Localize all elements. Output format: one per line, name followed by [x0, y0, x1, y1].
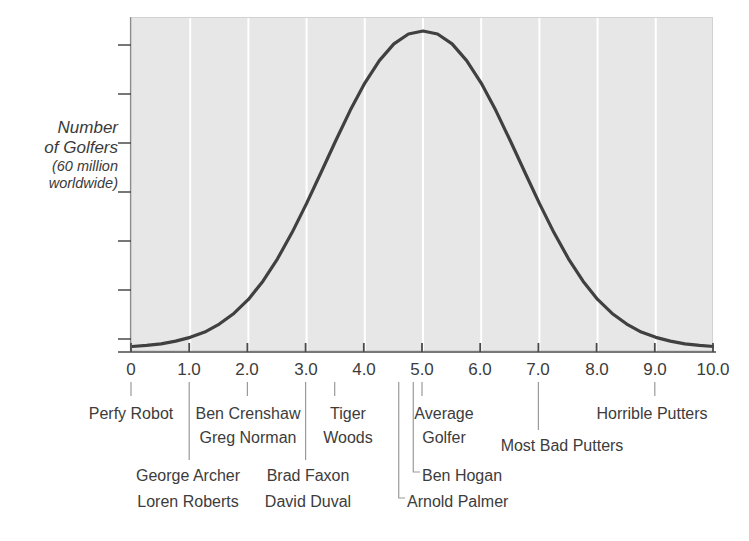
leader-elbow: [399, 382, 405, 498]
plot-area: [131, 17, 713, 351]
golfer-putting-distribution-chart: Number of Golfers (60 million worldwide)…: [0, 0, 749, 541]
x-tick-label-1: 1.0: [177, 360, 201, 380]
curve-svg: [132, 18, 714, 352]
x-tick-label-6: 6.0: [468, 360, 492, 380]
y-axis-label-line-3: (60 million: [8, 158, 118, 175]
annotation-loren-roberts: Loren Roberts: [137, 492, 238, 512]
annotation-ben-crenshaw: Ben Crenshaw: [196, 404, 301, 424]
x-tick-label-3: 3.0: [294, 360, 318, 380]
annotation-george-archer: George Archer: [136, 466, 240, 486]
leader-elbow: [413, 382, 420, 472]
annotation-brad-faxon: Brad Faxon: [267, 466, 350, 486]
annotation-golfer: Golfer: [422, 428, 466, 448]
annotation-horrible-putters: Horrible Putters: [596, 404, 707, 424]
annotation-tiger: Tiger: [330, 404, 366, 424]
x-tick-label-7: 7.0: [526, 360, 550, 380]
x-tick-label-8: 8.0: [585, 360, 609, 380]
annotation-david-duval: David Duval: [265, 492, 351, 512]
annotation-average: Average: [414, 404, 473, 424]
y-axis-label-line-2: of Golfers: [8, 138, 118, 158]
annotation-arnold-palmer: Arnold Palmer: [407, 492, 508, 512]
y-axis-label: Number of Golfers (60 million worldwide): [8, 118, 118, 192]
annotation-most-bad-putters: Most Bad Putters: [501, 436, 624, 456]
x-tick-label-0: 0: [126, 360, 135, 380]
annotation-greg-norman: Greg Norman: [200, 428, 297, 448]
annotation-ben-hogan: Ben Hogan: [422, 466, 502, 486]
x-tick-label-10: 10.0: [696, 360, 729, 380]
annotation-perfy-robot: Perfy Robot: [89, 404, 173, 424]
y-axis-ticks: [118, 45, 131, 339]
x-tick-label-4: 4.0: [352, 360, 376, 380]
y-axis-label-line-4: worldwide): [8, 175, 118, 192]
x-tick-label-9: 9.0: [643, 360, 667, 380]
x-tick-label-5: 5.0: [410, 360, 434, 380]
x-tick-label-2: 2.0: [235, 360, 259, 380]
annotation-woods: Woods: [323, 428, 373, 448]
y-axis-label-line-1: Number: [8, 118, 118, 138]
